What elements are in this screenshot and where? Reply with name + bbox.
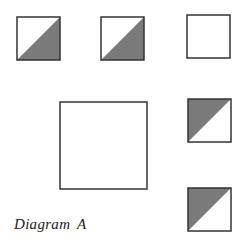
square-4 [188,99,231,142]
shaded-triangle [188,188,231,231]
square-5 [188,188,231,231]
shaded-triangle [17,17,60,60]
diagram-caption: Diagram A [14,216,87,233]
large-square [60,102,147,189]
square-outline [60,102,147,189]
diagram-canvas [0,0,238,245]
shaded-triangle [101,17,144,60]
shaded-triangle [188,99,231,142]
square-3 [187,15,230,58]
square-outline [187,15,230,58]
square-2 [101,17,144,60]
square-1 [17,17,60,60]
